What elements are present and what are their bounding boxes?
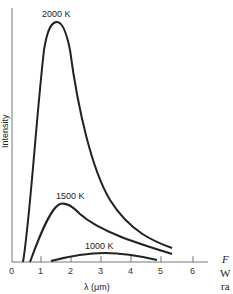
caption-line-2: W [220, 267, 231, 279]
x-tick-2: 2 [68, 266, 73, 276]
caption-line-3: ra [221, 280, 230, 292]
x-tick-3: 3 [98, 266, 103, 276]
y-axis-label: Intensity [0, 114, 10, 148]
caption-line-1: F [221, 253, 229, 265]
x-axis-label: λ (μm) [84, 282, 110, 292]
label-1000k: 1000 K [85, 241, 114, 251]
label-1500k: 1500 K [56, 191, 85, 201]
blackbody-chart: 0 1 2 3 4 5 6 λ (μm) Intensity 2000 K 15… [0, 0, 233, 294]
label-2000k: 2000 K [42, 9, 71, 19]
x-tick-4: 4 [128, 266, 133, 276]
x-tick-6: 6 [190, 266, 195, 276]
x-tick-1: 1 [38, 266, 43, 276]
curve-1000k [51, 253, 157, 261]
x-tick-5: 5 [158, 266, 163, 276]
x-tick-0: 0 [9, 266, 14, 276]
